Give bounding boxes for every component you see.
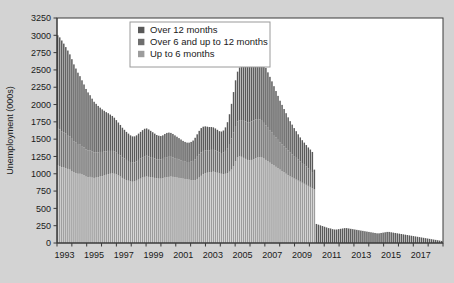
bar-segment xyxy=(293,128,294,156)
bar-segment xyxy=(158,179,159,243)
bar-segment xyxy=(271,81,272,132)
bar-segment xyxy=(87,92,88,150)
bar-segment xyxy=(297,160,298,181)
bar-segment xyxy=(211,150,212,172)
x-axis-tick-label: 2009 xyxy=(292,250,312,260)
bar-segment xyxy=(168,133,169,157)
bar-segment xyxy=(194,138,195,159)
bar-segment xyxy=(225,174,226,243)
bar-segment xyxy=(227,122,228,148)
bar-segment xyxy=(427,239,428,244)
bar-segment xyxy=(120,177,121,243)
bar-segment xyxy=(150,131,151,157)
bar-segment xyxy=(85,89,86,150)
bar-segment xyxy=(370,232,371,243)
bar-segment xyxy=(186,143,187,162)
bar-segment xyxy=(249,160,250,243)
bar-segment xyxy=(295,158,296,180)
bar-segment xyxy=(259,119,260,157)
bar-segment xyxy=(318,225,319,243)
bar-segment xyxy=(310,150,311,170)
bar-segment xyxy=(352,229,353,243)
bar-segment xyxy=(273,135,274,165)
bar-segment xyxy=(405,235,406,243)
bar-segment xyxy=(61,167,62,243)
bar-segment xyxy=(340,229,341,243)
bar-segment xyxy=(168,177,169,243)
bar-segment xyxy=(431,239,432,243)
bar-segment xyxy=(263,64,264,123)
bar-segment xyxy=(283,109,284,146)
bar-segment xyxy=(261,121,262,158)
bar-segment xyxy=(281,171,282,243)
bar-segment xyxy=(312,172,313,188)
bar-segment xyxy=(63,132,64,167)
bar-segment xyxy=(132,163,133,182)
bar-segment xyxy=(415,236,416,243)
bar-segment xyxy=(221,174,222,243)
bar-segment xyxy=(203,127,204,151)
bar-segment xyxy=(308,147,309,168)
bar-segment xyxy=(97,106,98,152)
bar-segment xyxy=(176,137,177,159)
bar-segment xyxy=(237,72,238,122)
bar-segment xyxy=(267,72,268,127)
bar-segment xyxy=(180,178,181,243)
bar-segment xyxy=(140,132,141,159)
bar-segment xyxy=(95,104,96,152)
bar-segment xyxy=(108,113,109,151)
bar-segment xyxy=(233,166,234,243)
bar-segment xyxy=(215,172,216,243)
bar-segment xyxy=(77,144,78,174)
bar-segment xyxy=(390,232,391,243)
legend-label: Over 12 months xyxy=(150,24,218,35)
bar-segment xyxy=(156,135,157,159)
bar-segment xyxy=(409,235,410,243)
x-axis-tick-label: 1995 xyxy=(84,250,104,260)
bar-segment xyxy=(304,143,305,165)
bar-segment xyxy=(417,237,418,243)
bar-segment xyxy=(209,127,210,150)
bar-segment xyxy=(77,174,78,243)
bar-segment xyxy=(112,173,113,243)
bar-segment xyxy=(320,225,321,243)
bar-segment xyxy=(154,134,155,159)
bar-segment xyxy=(93,102,94,153)
bar-segment xyxy=(261,60,262,121)
bar-segment xyxy=(283,146,284,172)
bar-segment xyxy=(71,59,72,139)
bar-segment xyxy=(395,233,396,243)
bar-segment xyxy=(69,170,70,243)
bar-segment xyxy=(237,122,238,158)
bar-segment xyxy=(241,65,242,120)
bar-segment xyxy=(403,234,404,243)
bar-segment xyxy=(148,177,149,243)
bar-segment xyxy=(75,143,76,173)
bar-segment xyxy=(397,233,398,243)
bar-segment xyxy=(200,128,201,152)
bar-segment xyxy=(253,159,254,243)
bar-segment xyxy=(302,163,303,183)
bar-segment xyxy=(158,160,159,179)
bar-segment xyxy=(229,114,230,144)
bar-segment xyxy=(362,231,363,243)
bar-segment xyxy=(124,179,125,243)
bar-segment xyxy=(241,157,242,243)
bar-segment xyxy=(332,229,333,243)
bar-segment xyxy=(150,177,151,243)
bar-segment xyxy=(360,231,361,243)
bar-segment xyxy=(289,153,290,177)
bar-segment xyxy=(178,160,179,178)
bar-segment xyxy=(77,73,78,144)
bar-segment xyxy=(219,153,220,174)
bar-segment xyxy=(324,227,325,243)
bar-segment xyxy=(140,159,141,179)
bar-segment xyxy=(374,233,375,243)
bar-segment xyxy=(407,235,408,243)
bar-segment xyxy=(142,157,143,177)
bar-segment xyxy=(120,155,121,176)
bar-segment xyxy=(132,136,133,162)
bar-segment xyxy=(95,178,96,243)
bar-segment xyxy=(209,150,210,172)
bar-segment xyxy=(308,168,309,186)
